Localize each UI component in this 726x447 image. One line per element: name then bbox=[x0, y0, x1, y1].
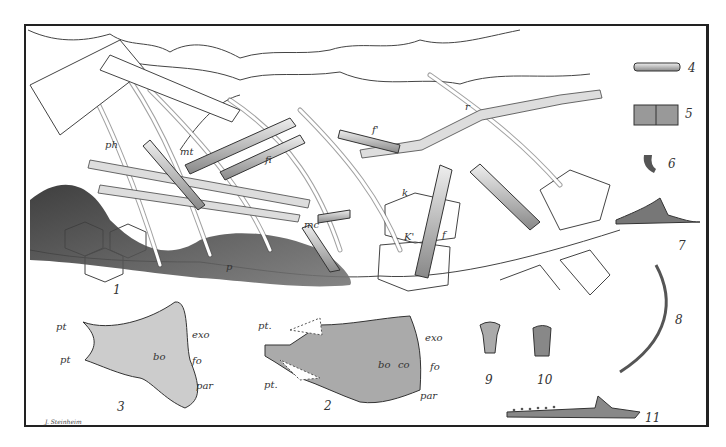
figure-number-5: 5 bbox=[685, 108, 693, 120]
label-fig2-pt-upper: pt. bbox=[258, 321, 272, 331]
label-fig2-exo: exo bbox=[425, 333, 443, 343]
label-fig3-bo: bo bbox=[153, 352, 165, 362]
figure-number-3: 3 bbox=[117, 401, 125, 413]
fig7-fragment bbox=[616, 198, 700, 224]
label-fig3-fo: fo bbox=[192, 356, 202, 366]
label-fig3-pt-upper: pt bbox=[56, 322, 66, 332]
figure-number-4: 4 bbox=[688, 62, 696, 74]
label-k-prime: K' bbox=[404, 232, 414, 242]
fig11-jaw bbox=[507, 396, 640, 418]
illustration-artwork bbox=[0, 0, 726, 447]
figure-number-11: 11 bbox=[645, 412, 660, 424]
label-ph: ph bbox=[105, 140, 118, 150]
figure-number-10: 10 bbox=[537, 374, 552, 386]
label-fig2-co: co bbox=[398, 360, 410, 370]
fig6-claw bbox=[644, 155, 656, 173]
label-f: f bbox=[442, 230, 446, 240]
label-mc: mc bbox=[304, 220, 319, 230]
fig9-tooth bbox=[480, 322, 500, 353]
label-fig3-pt-lower: pt bbox=[60, 355, 70, 365]
label-fi: fi bbox=[265, 155, 272, 165]
fig10-tooth bbox=[533, 326, 551, 357]
label-fig2-fo: fo bbox=[430, 362, 440, 372]
figure-number-2: 2 bbox=[324, 400, 332, 412]
figure-number-9: 9 bbox=[485, 374, 493, 386]
label-mt: mt bbox=[180, 147, 194, 157]
artist-signature: J. Steinheim bbox=[45, 418, 82, 425]
label-fig2-pt-lower: pt. bbox=[264, 380, 278, 390]
label-r: r bbox=[465, 102, 470, 112]
fig8-curved-rib bbox=[620, 265, 666, 372]
label-f-prime: f' bbox=[372, 125, 378, 135]
label-p: p bbox=[226, 262, 232, 272]
label-fig2-par: par bbox=[420, 391, 437, 401]
figure-number-8: 8 bbox=[675, 314, 683, 326]
fig3-skull-base bbox=[83, 302, 198, 408]
figure-number-6: 6 bbox=[668, 158, 676, 170]
label-fig2-bo: bo bbox=[378, 360, 390, 370]
label-fig3-par: par bbox=[196, 381, 213, 391]
label-fig3-exo: exo bbox=[192, 330, 210, 340]
figure-number-1: 1 bbox=[113, 284, 121, 296]
figure-number-7: 7 bbox=[678, 240, 686, 252]
label-k: k bbox=[402, 188, 408, 198]
fig4-vertebra bbox=[634, 63, 680, 71]
